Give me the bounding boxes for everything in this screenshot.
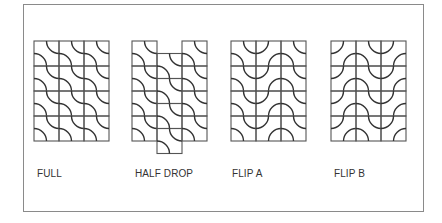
tile-A (34, 91, 59, 116)
tile-A (182, 66, 207, 91)
tile-B (331, 116, 356, 141)
tile-A (281, 91, 306, 116)
label-flip-a: FLIP A (232, 168, 262, 179)
tile-A (281, 41, 306, 66)
label-half-drop: HALF DROP (135, 168, 193, 179)
tile-A (182, 116, 207, 141)
tile-A (157, 129, 182, 154)
pattern-full (34, 41, 109, 141)
tile-A (84, 91, 109, 116)
tile-A (231, 116, 256, 141)
tile-patterns-canvas (0, 0, 442, 223)
pattern-half-drop (132, 41, 207, 154)
tile-A (132, 66, 157, 91)
tile-A (182, 41, 207, 66)
label-full: FULL (37, 168, 62, 179)
tile-B (381, 91, 406, 116)
tile-A (132, 91, 157, 116)
tile-A (59, 66, 84, 91)
tile-A (281, 116, 306, 141)
tile-A (59, 41, 84, 66)
tile-A (34, 116, 59, 141)
tile-B (256, 66, 281, 91)
tile-B (381, 116, 406, 141)
tile-A (231, 91, 256, 116)
tile-B (381, 66, 406, 91)
tile-B (256, 41, 281, 66)
tile-A (59, 91, 84, 116)
tile-B (331, 91, 356, 116)
tile-B (331, 41, 356, 66)
tile-A (356, 116, 381, 141)
tile-A (84, 66, 109, 91)
pattern-flip-b (331, 41, 406, 141)
tile-B (331, 66, 356, 91)
tile-A (84, 116, 109, 141)
tile-A (231, 66, 256, 91)
tile-A (59, 116, 84, 141)
tile-A (34, 66, 59, 91)
tile-A (132, 41, 157, 66)
tile-A (231, 41, 256, 66)
tile-A (157, 104, 182, 129)
tile-A (182, 91, 207, 116)
tile-A (356, 41, 381, 66)
tile-A (157, 79, 182, 104)
tile-A (132, 116, 157, 141)
tile-B (256, 91, 281, 116)
tile-B (381, 41, 406, 66)
tile-A (157, 54, 182, 79)
tile-A (34, 41, 59, 66)
tile-A (356, 66, 381, 91)
tile-A (281, 66, 306, 91)
tile-A (356, 91, 381, 116)
pattern-flip-a (231, 41, 306, 141)
tile-B (256, 116, 281, 141)
label-flip-b: FLIP B (334, 168, 365, 179)
tile-A (84, 41, 109, 66)
